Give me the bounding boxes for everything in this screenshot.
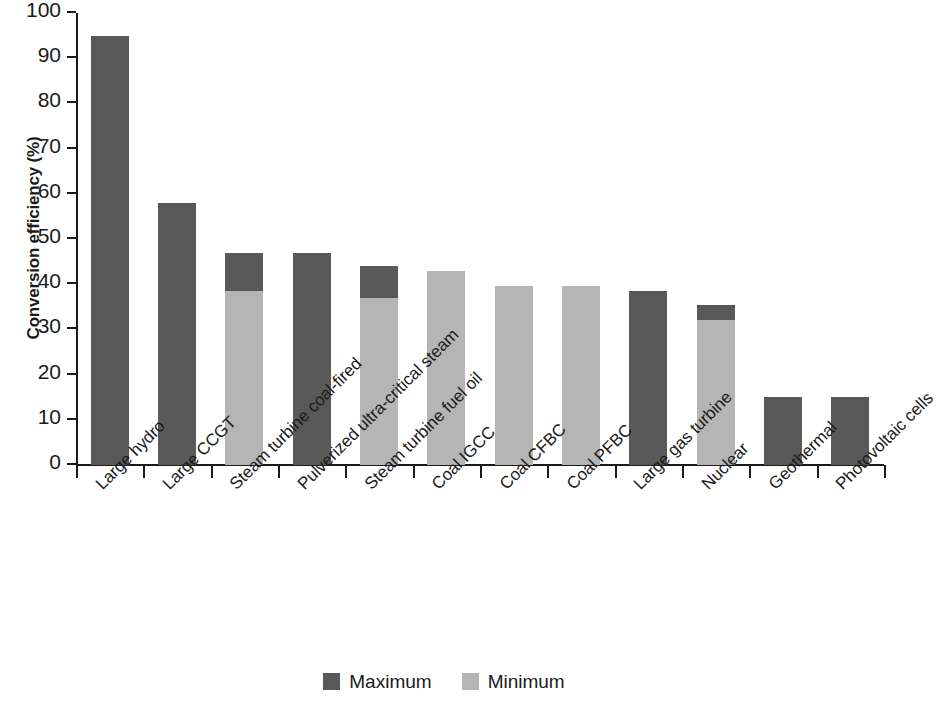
y-axis-tick: 40 (67, 282, 76, 284)
y-axis-tick: 70 (67, 147, 76, 149)
bar-segment-minimum (562, 286, 600, 465)
y-axis-tick-label: 0 (1, 450, 61, 474)
x-axis-tick (480, 465, 482, 478)
y-axis-tick-label: 10 (1, 405, 61, 429)
y-axis-tick-label: 20 (1, 360, 61, 384)
y-axis-tick: 80 (67, 101, 76, 103)
x-axis-tick (211, 465, 213, 478)
legend-label: Minimum (488, 672, 565, 691)
y-axis-tick-label: 60 (1, 179, 61, 203)
bar-segment-maximum (91, 36, 129, 465)
y-axis-tick-label: 70 (1, 134, 61, 158)
legend-item: Maximum (323, 672, 431, 691)
legend-swatch-icon (323, 673, 340, 690)
y-axis-tick: 30 (67, 327, 76, 329)
x-axis-tick (76, 465, 78, 478)
x-axis-tick (278, 465, 280, 478)
y-axis-tick-label: 90 (1, 43, 61, 67)
x-axis-tick (547, 465, 549, 478)
bar (562, 286, 600, 465)
legend-swatch-icon (462, 673, 479, 690)
y-axis-tick-label: 40 (1, 269, 61, 293)
x-axis-labels: Large hydroLarge CCGTSteam turbine coal-… (76, 480, 884, 665)
y-axis-tick: 60 (67, 192, 76, 194)
bar-segment-minimum (225, 291, 263, 465)
y-axis-tick: 90 (67, 56, 76, 58)
bar (697, 305, 735, 465)
bar-segment-minimum (495, 286, 533, 465)
x-axis-tick (345, 465, 347, 478)
x-axis-tick (143, 465, 145, 478)
y-axis-tick: 50 (67, 237, 76, 239)
y-axis-tick: 0 (67, 463, 76, 465)
y-axis-tick: 20 (67, 373, 76, 375)
x-axis-tick (817, 465, 819, 478)
y-axis-tick: 100 (67, 11, 76, 13)
bar-segment-maximum (360, 266, 398, 298)
bars-group (76, 13, 884, 465)
y-axis-tick-label: 100 (1, 0, 61, 22)
legend-label: Maximum (349, 672, 431, 691)
bar-segment-maximum (225, 253, 263, 291)
x-axis-tick (682, 465, 684, 478)
plot-area: 0102030405060708090100 (76, 13, 884, 465)
x-axis-tick (749, 465, 751, 478)
chart-legend: MaximumMinimum (0, 672, 888, 691)
y-axis-tick: 10 (67, 418, 76, 420)
y-axis-tick-label: 50 (1, 224, 61, 248)
bar-segment-maximum (697, 305, 735, 321)
bar (629, 291, 667, 465)
bar (91, 36, 129, 465)
y-axis-tick-label: 30 (1, 314, 61, 338)
x-axis-tick (413, 465, 415, 478)
y-axis-tick-label: 80 (1, 88, 61, 112)
legend-item: Minimum (462, 672, 565, 691)
bar-segment-maximum (629, 291, 667, 465)
x-axis-tick (884, 465, 886, 478)
bar (495, 286, 533, 465)
x-axis-tick (615, 465, 617, 478)
